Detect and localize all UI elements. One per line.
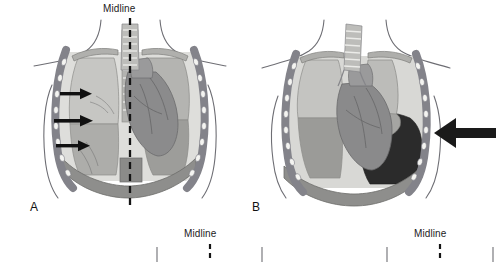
panel-b: B	[250, 0, 501, 230]
panel-c-illustration	[130, 228, 290, 262]
panel-a: Midline	[0, 0, 250, 230]
tension-arrow-b	[434, 118, 496, 148]
lung-left-upper-b	[297, 60, 343, 118]
lung-left-upper-a	[69, 58, 119, 124]
panel-c: Midline	[130, 228, 290, 262]
panel-b-illustration	[250, 0, 501, 230]
figure-root: Midline	[0, 0, 501, 262]
lung-left-lower-a	[70, 124, 119, 175]
panel-a-illustration	[0, 0, 250, 230]
panel-letter-a: A	[30, 200, 38, 214]
panel-d: Midline	[355, 228, 501, 262]
panel-d-illustration	[355, 228, 501, 262]
panel-letter-b: B	[252, 200, 260, 214]
